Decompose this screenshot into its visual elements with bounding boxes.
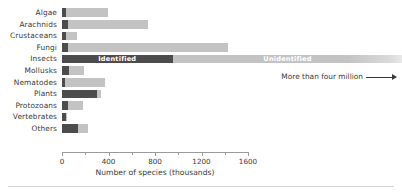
axis-tick-minor (178, 152, 179, 155)
table-row: Protozoans (0, 100, 402, 112)
annotation-more-than-four-million: More than four million (281, 72, 396, 82)
bar-segment-identified-vertebrates (62, 113, 66, 122)
chart-rows: Algae Arachnids Crustaceans Fungi (0, 7, 402, 135)
bar-segment-unidentified-nematodes (62, 78, 105, 87)
table-row: Others (0, 123, 402, 135)
category-label-others: Others (0, 123, 57, 135)
category-label-nematodes: Nematodes (0, 77, 57, 89)
bar-track-insects: Identified Unidentified (62, 55, 402, 64)
bar-label-unidentified: Unidentified (173, 55, 402, 64)
annotation-text: More than four million (281, 72, 363, 82)
category-label-arachnids: Arachnids (0, 19, 57, 31)
category-label-insects: Insects (0, 53, 57, 65)
category-label-mollusks: Mollusks (0, 65, 57, 77)
x-axis-title: Number of species (thousands) (62, 168, 248, 177)
footer-divider (8, 186, 394, 187)
category-label-protozoans: Protozoans (0, 100, 57, 112)
table-row: Insects Identified Unidentified (0, 53, 402, 65)
axis-tick-minor (225, 152, 226, 155)
bar-track-plants (62, 90, 402, 99)
axis-tick-minor (132, 152, 133, 155)
bar-track-crustaceans (62, 32, 402, 41)
bar-segment-identified-arachnids (62, 20, 68, 29)
category-label-crustaceans: Crustaceans (0, 30, 57, 42)
x-axis: 0 400 800 1200 1600 (62, 152, 248, 153)
bar-label-identified: Identified (62, 55, 173, 64)
bar-segment-identified-protozoans (62, 101, 68, 110)
bar-segment-identified-mollusks (62, 66, 69, 75)
axis-tick-label: 1600 (239, 157, 257, 166)
bar-segment-identified-plants (62, 90, 97, 99)
table-row: Arachnids (0, 19, 402, 31)
bar-segment-unidentified-algae (62, 8, 108, 17)
category-label-algae: Algae (0, 7, 57, 19)
table-row: Algae (0, 7, 402, 19)
bar-track-arachnids (62, 20, 402, 29)
table-row: Vertebrates (0, 111, 402, 123)
table-row: Plants (0, 88, 402, 100)
category-label-plants: Plants (0, 88, 57, 100)
bar-segment-identified-others (62, 124, 78, 133)
table-row: Crustaceans (0, 30, 402, 42)
bar-segment-identified-fungi (62, 43, 68, 52)
axis-tick-label: 0 (60, 157, 65, 166)
table-row: Fungi (0, 42, 402, 54)
axis-tick (109, 152, 110, 156)
category-label-fungi: Fungi (0, 42, 57, 54)
bar-track-others (62, 124, 402, 133)
axis-tick (62, 152, 63, 156)
bar-segment-identified-crustaceans (62, 32, 66, 41)
bar-track-vertebrates (62, 113, 402, 122)
bar-segment-unidentified-fungi (62, 43, 228, 52)
bar-track-fungi (62, 43, 402, 52)
bar-segment-identified-nematodes (62, 78, 65, 87)
axis-tick (202, 152, 203, 156)
axis-tick (155, 152, 156, 156)
right-arrow-icon (366, 77, 396, 78)
axis-tick (248, 152, 249, 156)
axis-tick-minor (85, 152, 86, 155)
axis-tick-label: 1200 (192, 157, 210, 166)
bar-track-protozoans (62, 101, 402, 110)
species-bar-chart: Algae Arachnids Crustaceans Fungi (0, 0, 402, 194)
bar-segment-identified-algae (62, 8, 66, 17)
bar-segment-unidentified-arachnids (62, 20, 148, 29)
axis-tick-label: 400 (102, 157, 116, 166)
category-label-vertebrates: Vertebrates (0, 111, 57, 123)
bar-track-algae (62, 8, 402, 17)
axis-tick-label: 800 (148, 157, 162, 166)
